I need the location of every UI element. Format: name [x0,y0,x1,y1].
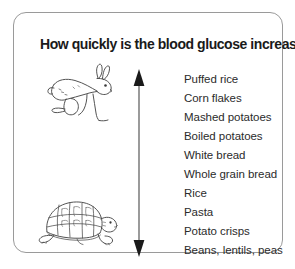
list-item: Corn flakes [184,89,295,108]
list-item: Mashed potatoes [184,108,295,127]
tortoise-icon [34,195,122,251]
double-headed-vertical-arrow [127,67,151,259]
list-item: Potato crisps [184,222,295,241]
list-item: Puffed rice [184,70,295,89]
food-list: Puffed rice Corn flakes Mashed potatoes … [184,70,295,260]
list-item: Rice [184,184,295,203]
page-title: How quickly is the blood glucose increas… [40,35,281,53]
list-item: White bread [184,146,295,165]
info-panel: How quickly is the blood glucose increas… [13,12,283,253]
list-item: Boiled potatoes [184,127,295,146]
list-item: Whole grain bread [184,165,295,184]
list-item: Beans, lentils, peas [184,241,295,260]
list-item: Pasta [184,203,295,222]
hare-icon [44,63,114,125]
